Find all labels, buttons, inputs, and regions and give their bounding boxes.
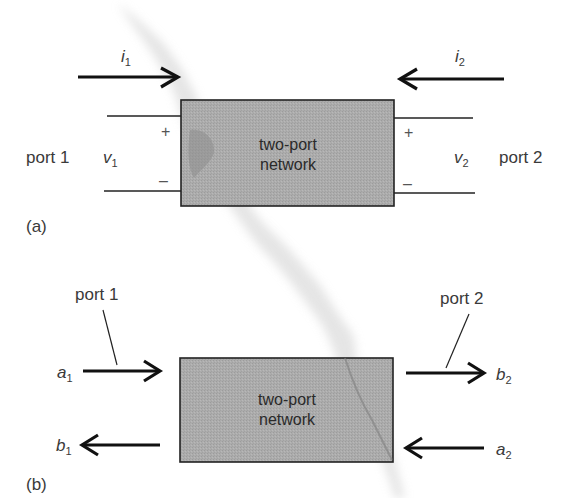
- box-label-a-line2: network: [260, 156, 317, 173]
- caption-a: (a): [26, 217, 47, 236]
- caption-b: (b): [26, 475, 47, 494]
- incident-a2-arrow-left-icon: [406, 438, 484, 458]
- box-label-b-line1: two-port: [258, 391, 316, 408]
- current-i1-arrow-right-icon: [78, 68, 178, 87]
- current-i2-label: i2: [455, 47, 465, 68]
- port1-leader-line: [103, 310, 117, 365]
- two-port-network-figure: two-port network + – + – port 1 port 2 v…: [0, 0, 575, 498]
- figure-b: two-port network port 1 a1 b1 port 2 b2 …: [26, 285, 512, 494]
- port1-label-b: port 1: [75, 285, 118, 304]
- port1-label-a: port 1: [26, 148, 69, 167]
- port2-leader-line: [446, 314, 469, 368]
- port2-minus-sign: –: [403, 175, 412, 192]
- incident-a1-label: a1: [57, 363, 73, 384]
- reflected-b1-label: b1: [56, 436, 72, 457]
- figure-a: two-port network + – + – port 1 port 2 v…: [26, 47, 542, 236]
- port2-label-a: port 2: [499, 148, 542, 167]
- box-label-b-line2: network: [259, 411, 316, 428]
- current-i1-label: i1: [121, 47, 131, 68]
- port2-plus-sign: +: [404, 124, 413, 141]
- reflected-b1-arrow-left-icon: [82, 435, 160, 455]
- transmitted-b2-arrow-right-icon: [406, 363, 484, 383]
- port1-plus-sign: +: [161, 123, 170, 140]
- voltage-v1-label: v1: [103, 148, 118, 169]
- box-label-a-line1: two-port: [259, 136, 317, 153]
- current-i2-arrow-left-icon: [400, 69, 504, 89]
- port1-minus-sign: –: [159, 172, 168, 189]
- transmitted-b2-label: b2: [496, 365, 512, 386]
- port2-label-b: port 2: [440, 289, 483, 308]
- two-port-network-box-b: [180, 358, 393, 462]
- incident-a1-arrow-right-icon: [83, 361, 160, 381]
- incident-a2-label: a2: [496, 440, 512, 461]
- voltage-v2-label: v2: [454, 148, 469, 169]
